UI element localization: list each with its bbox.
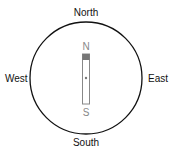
needle-north-end <box>83 54 90 60</box>
needle-north-pole-label: N <box>82 41 89 52</box>
label-south: South <box>73 137 99 148</box>
label-east: East <box>148 73 168 84</box>
label-north: North <box>74 7 98 18</box>
needle-pivot <box>85 77 87 79</box>
compass-diagram: North South West East N S <box>0 0 172 152</box>
needle-south-pole-label: S <box>83 107 90 118</box>
label-west: West <box>5 73 28 84</box>
